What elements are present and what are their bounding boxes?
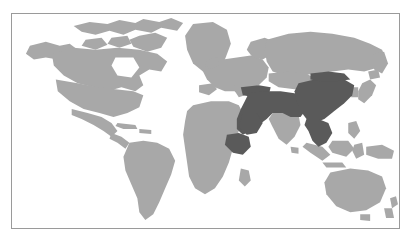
region-sri-lanka bbox=[291, 147, 299, 154]
world-map bbox=[12, 14, 399, 228]
region-tasmania bbox=[360, 214, 370, 221]
map-frame bbox=[11, 13, 400, 229]
region-java bbox=[322, 163, 346, 168]
map-figure bbox=[0, 0, 412, 242]
